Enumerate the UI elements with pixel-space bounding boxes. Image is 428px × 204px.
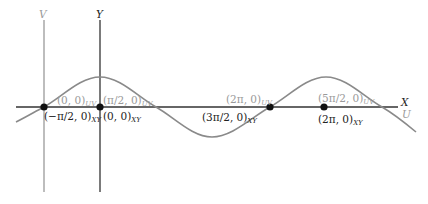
point-4-xy-label: (2π, 0)XY bbox=[318, 113, 364, 127]
point-4 bbox=[320, 103, 327, 110]
point-4-uv-label: (5π/2, 0)UV bbox=[318, 92, 375, 106]
coordinate-diagram: V Y X U (0, 0)UV (−π/2, 0)XY (π/2, 0)UV … bbox=[0, 0, 428, 204]
point-1-xy-label: (−π/2, 0)XY bbox=[44, 110, 102, 124]
point-3-uv-label: (2π, 0)UV bbox=[226, 93, 273, 107]
point-2-xy-label: (0, 0)XY bbox=[103, 110, 142, 124]
u-axis-label: U bbox=[402, 108, 412, 120]
y-axis-label: Y bbox=[96, 8, 104, 20]
point-1-uv-label: (0, 0)UV bbox=[57, 94, 97, 108]
point-2-uv-label: (π/2, 0)UV bbox=[103, 94, 154, 108]
v-axis-label: V bbox=[39, 8, 48, 20]
point-3-xy-label: (3π/2, 0)XY bbox=[202, 111, 258, 125]
x-axis-label: X bbox=[400, 96, 409, 108]
